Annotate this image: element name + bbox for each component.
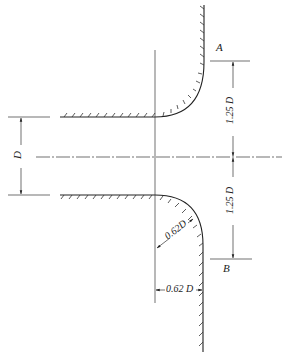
- diagram-drawing: [0, 0, 287, 362]
- lower-length-label: 1.25 D: [224, 187, 235, 214]
- upper-wall: [60, 5, 204, 117]
- diameter-label: D: [11, 151, 23, 159]
- offset-label: 0.62 D: [166, 283, 193, 294]
- upper-length-label: 1.25 D: [224, 97, 235, 124]
- upper-hatching: [64, 6, 204, 117]
- point-a-label: A: [216, 41, 223, 53]
- point-b-label: B: [223, 262, 230, 274]
- bellmouth-diagram: A B D 1.25 D 1.25 D 0.62D 0.62 D: [0, 0, 287, 362]
